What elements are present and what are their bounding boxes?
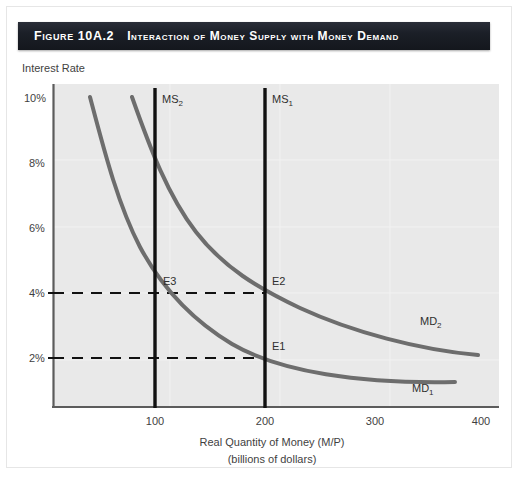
x-tick-label-100: 100 bbox=[146, 415, 164, 427]
curve-label-ms2-text: MS bbox=[162, 93, 179, 105]
curve-label-md1-sub: 1 bbox=[429, 388, 434, 397]
chart-svg: Interest Rate 10% 8% 6% 4% 2% 100 200 30… bbox=[0, 0, 520, 479]
x-tick-label-400: 400 bbox=[472, 415, 490, 427]
curve-label-md1-text: MD bbox=[412, 382, 429, 394]
curve-label-md2-text: MD bbox=[420, 315, 437, 327]
x-axis-title: Real Quantity of Money (M/P) bbox=[200, 436, 345, 448]
x-axis-subtitle: (billions of dollars) bbox=[228, 453, 317, 465]
figure-container: Figure 10A.2 Interaction of Money Supply… bbox=[0, 0, 520, 479]
x-tick-label-300: 300 bbox=[366, 415, 384, 427]
y-tick-label-8: 8% bbox=[29, 157, 45, 169]
curve-label-ms2-sub: 2 bbox=[179, 99, 184, 108]
curve-label-ms1-sub: 1 bbox=[289, 99, 294, 108]
equilibrium-label-e2: E2 bbox=[272, 275, 285, 287]
y-tick-label-10: 10% bbox=[24, 92, 46, 104]
curve-label-ms1-text: MS bbox=[272, 93, 289, 105]
y-tick-label-2: 2% bbox=[29, 352, 45, 364]
plot-background bbox=[53, 84, 499, 408]
y-tick-label-6: 6% bbox=[29, 222, 45, 234]
equilibrium-label-e3: E3 bbox=[163, 275, 176, 287]
x-tick-label-200: 200 bbox=[256, 415, 274, 427]
chart-plot-area: Interest Rate 10% 8% 6% 4% 2% 100 200 30… bbox=[0, 0, 520, 479]
y-tick-label-4: 4% bbox=[29, 287, 45, 299]
curve-label-md2-sub: 2 bbox=[437, 321, 442, 330]
y-axis-title: Interest Rate bbox=[22, 62, 85, 74]
equilibrium-label-e1: E1 bbox=[272, 340, 285, 352]
